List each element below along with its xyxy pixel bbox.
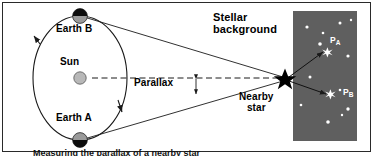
label-sun: Sun bbox=[60, 57, 79, 68]
orbit-direction-arrow-upper bbox=[34, 36, 40, 44]
label-earth-b: Earth B bbox=[56, 24, 92, 35]
label-position-a-subscript: A bbox=[336, 39, 341, 46]
label-position-b: PB bbox=[343, 88, 354, 97]
nearby-star-glyph bbox=[274, 69, 296, 90]
label-earth-a: Earth A bbox=[56, 113, 92, 124]
label-parallax: Parallax bbox=[134, 78, 173, 89]
parallax-figure: Earth B Sun Earth A Parallax Stellar bac… bbox=[0, 0, 375, 156]
label-position-a-base: P bbox=[330, 35, 336, 45]
stellar-background-panel bbox=[293, 11, 357, 141]
sun-body bbox=[74, 72, 86, 84]
earth-a-body bbox=[73, 133, 88, 148]
label-position-b-base: P bbox=[343, 87, 349, 97]
figure-caption-clipped: Measuring the parallax of a nearby star bbox=[33, 149, 333, 156]
label-nearby-star: Nearby star bbox=[239, 92, 274, 114]
label-position-b-subscript: B bbox=[349, 91, 354, 98]
label-position-a: PA bbox=[330, 36, 341, 45]
earth-b-body bbox=[73, 9, 88, 24]
label-stellar-background: Stellar background bbox=[213, 12, 277, 36]
